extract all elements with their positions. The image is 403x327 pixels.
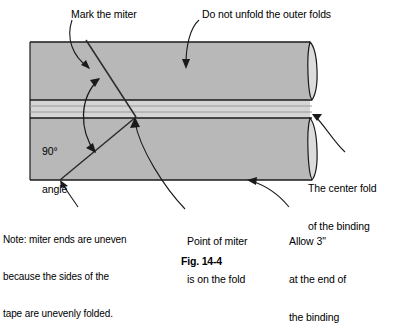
angle-value: 90° xyxy=(42,145,67,158)
note-line-3: tape are unevenly folded. xyxy=(3,308,126,320)
figure-caption: Fig. 14-4 xyxy=(0,255,403,267)
label-allow-three-inches: Allow 3" at the end of the binding xyxy=(289,210,346,327)
point-of-miter-line-1: Point of miter xyxy=(187,235,247,248)
label-90-degree-angle: 90° angle xyxy=(42,120,67,221)
angle-word: angle xyxy=(42,183,67,196)
point-of-miter-line-2: is on the fold xyxy=(187,273,247,286)
label-note-miter-ends-uneven: Note: miter ends are uneven because the … xyxy=(3,210,126,327)
leader-allow xyxy=(251,181,289,207)
arrowhead-center-fold xyxy=(312,114,322,121)
note-line-2: because the sides of the xyxy=(3,271,126,283)
label-mark-the-miter: Mark the miter xyxy=(71,8,137,21)
center-fold-line-1: The center fold xyxy=(308,182,377,195)
center-fold-strip xyxy=(30,100,310,118)
allow-line-1: Allow 3" xyxy=(289,235,346,248)
label-do-not-unfold-outer-folds: Do not unfold the outer folds xyxy=(202,8,331,21)
upper-fold-end xyxy=(308,42,317,100)
allow-line-2: at the end of xyxy=(289,273,346,286)
binding-tape-shape xyxy=(30,40,317,180)
upper-outer-panel xyxy=(30,42,310,100)
allow-line-3: the binding xyxy=(289,311,346,324)
note-line-1: Note: miter ends are uneven xyxy=(3,234,126,246)
leader-center-fold xyxy=(315,116,345,152)
